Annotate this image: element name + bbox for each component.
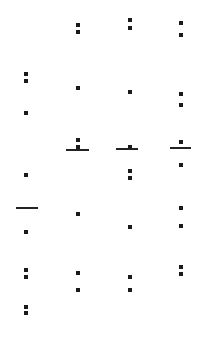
dot: [179, 103, 183, 107]
dot: [76, 30, 80, 34]
dot: [128, 169, 132, 173]
dot: [76, 86, 80, 90]
dot: [24, 79, 28, 83]
horizontal-bar: [170, 147, 191, 149]
dot: [128, 225, 132, 229]
horizontal-bar: [16, 207, 38, 209]
dot: [179, 265, 183, 269]
dot: [179, 33, 183, 37]
dot: [24, 111, 28, 115]
horizontal-bar: [66, 149, 89, 151]
dot-pattern-canvas: [0, 0, 207, 363]
dot: [24, 268, 28, 272]
dot: [179, 163, 183, 167]
dot: [76, 271, 80, 275]
dot: [179, 206, 183, 210]
dot: [179, 92, 183, 96]
dot: [128, 26, 132, 30]
dot: [76, 23, 80, 27]
dot: [128, 176, 132, 180]
dot: [179, 224, 183, 228]
dot: [179, 272, 183, 276]
horizontal-bar: [116, 148, 138, 150]
dot: [24, 72, 28, 76]
dot: [24, 311, 28, 315]
dot: [76, 288, 80, 292]
dot: [76, 138, 80, 142]
dot: [24, 305, 28, 309]
dot: [76, 212, 80, 216]
dot: [24, 275, 28, 279]
dot: [128, 275, 132, 279]
dot: [179, 140, 183, 144]
dot: [128, 288, 132, 292]
dot: [179, 21, 183, 25]
dot: [128, 18, 132, 22]
dot: [128, 90, 132, 94]
dot: [24, 173, 28, 177]
dot: [24, 230, 28, 234]
